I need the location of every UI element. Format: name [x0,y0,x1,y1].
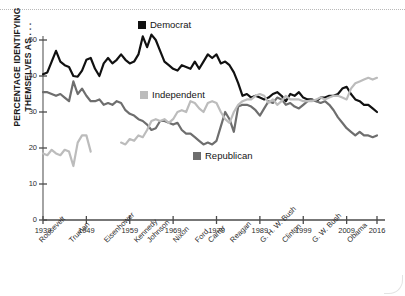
legend-swatch-republican [193,152,201,160]
chart-axes [39,36,385,224]
y-tick-label-30: 30 [7,107,37,116]
legend-item-republican: Republican [193,150,253,161]
legend-label-republican: Republican [205,150,253,161]
legend-label-democrat: Democrat [150,19,191,30]
legend-swatch-democrat [138,21,146,29]
y-tick-label-0: 0 [7,215,37,224]
y-tick-label-10: 10 [7,179,37,188]
y-tick-label-50: 50 [7,35,37,44]
chart-series-lines [43,35,377,166]
legend-swatch-independent [140,91,148,99]
y-tick-label-40: 40 [7,71,37,80]
legend-label-independent: Independent [152,89,205,100]
legend-item-independent: Independent [140,89,205,100]
chart-plot-area [0,0,405,296]
chart-figure: PERCENTAGE IDENTIFYING THEMSELVES AS . .… [0,0,405,296]
legend-item-democrat: Democrat [138,19,191,30]
y-tick-label-20: 20 [7,143,37,152]
